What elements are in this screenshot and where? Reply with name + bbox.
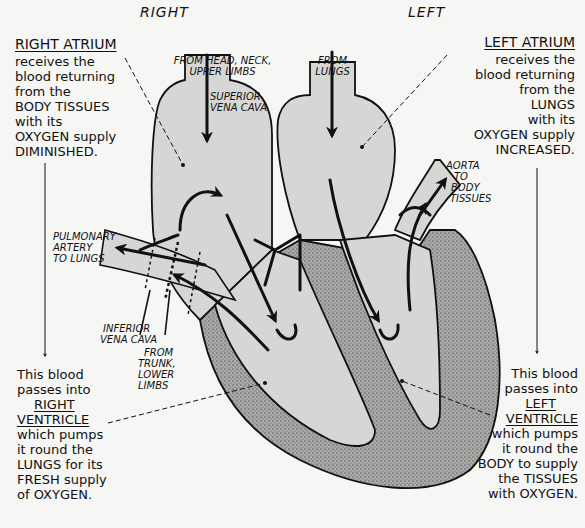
right-atrium-description: RIGHT ATRIUM receives the blood returnin… [15,37,135,159]
text-line: blood returning [450,67,575,82]
text-line: BODY [446,182,491,193]
text-line: with its [15,114,135,129]
text-line: which pumps [460,426,578,441]
text-line: UPPER LIMBS [160,66,285,77]
from-lungs-label: FROM LUNGS [305,55,360,77]
text-line: with its [450,112,575,127]
right-ventricle-title: RIGHT [17,397,127,412]
pulmonary-artery-label: PULMONARY ARTERY TO LUNGS [53,231,116,264]
text-line: SUPERIOR [210,91,267,102]
inferior-vena-cava-label: INFERIOR VENA CAVA [100,323,157,345]
text-line: INCREASED. [450,142,575,157]
text-line: LOWER [138,369,176,380]
text-line: TISSUES [446,193,491,204]
text-line: receives the [450,52,575,67]
text-line: from the [15,84,135,99]
text-line: receives the [15,54,135,69]
text-line: FROM HEAD, NECK, [160,55,285,66]
text-line: passes into [460,381,578,396]
text-line: PULMONARY [53,231,116,242]
left-ventricle-title: VENTRICLE [460,411,578,426]
left-side-heading: LEFT [408,4,445,20]
text-line: AORTA [446,160,491,171]
left-ventricle-description: This blood passes into LEFT VENTRICLE wh… [460,366,578,501]
text-line: of OXYGEN. [17,487,127,502]
text-line: TRUNK, [138,358,176,369]
text-line: TO [446,171,491,182]
text-line: VENA CAVA [210,102,267,113]
heart-diagram: RIGHT LEFT RIGHT ATRIUM receives the blo… [0,0,585,528]
text-line: FROM [305,55,360,66]
text-line: passes into [17,382,127,397]
text-line: BODY TISSUES [15,99,135,114]
text-line: it round the [17,442,127,457]
right-ventricle-title: VENTRICLE [17,412,127,427]
left-atrium-description: LEFT ATRIUM receives the blood returning… [450,35,575,157]
text-line: from the [450,82,575,97]
text-line: LUNGS [450,97,575,112]
text-line: FROM [138,347,176,358]
text-line: LUNGS for its [17,457,127,472]
right-atrium-title: RIGHT ATRIUM [15,37,135,52]
text-line: ARTERY [53,242,116,253]
aorta-label: AORTA TO BODY TISSUES [446,160,491,204]
text-line: This blood [460,366,578,381]
from-head-label: FROM HEAD, NECK, UPPER LIMBS [160,55,285,77]
text-line: This blood [17,367,127,382]
text-line: LIMBS [138,380,176,391]
right-side-heading: RIGHT [140,4,189,20]
text-line: DIMINISHED. [15,144,135,159]
text-line: it round the [460,441,578,456]
text-line: with OXYGEN. [460,486,578,501]
text-line: FRESH supply [17,472,127,487]
text-line: VENA CAVA [100,334,157,345]
left-ventricle-title: LEFT [460,396,578,411]
text-line: BODY to supply [460,456,578,471]
text-line: OXYGEN supply [15,129,135,144]
superior-vena-cava-label: SUPERIOR VENA CAVA [210,91,267,113]
text-line: the TISSUES [460,471,578,486]
text-line: which pumps [17,427,127,442]
text-line: OXYGEN supply [450,127,575,142]
text-line: TO LUNGS [53,253,116,264]
left-atrium-title: LEFT ATRIUM [450,35,575,50]
text-line: INFERIOR [100,323,157,334]
right-ventricle-description: This blood passes into RIGHT VENTRICLE w… [17,367,127,502]
text-line: LUNGS [305,66,360,77]
from-trunk-label: FROM TRUNK, LOWER LIMBS [138,347,176,391]
text-line: blood returning [15,69,135,84]
